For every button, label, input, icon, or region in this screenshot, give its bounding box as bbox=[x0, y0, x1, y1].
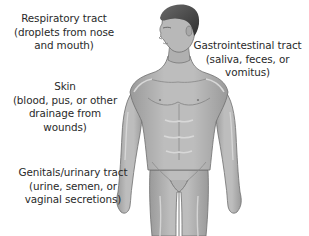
gu-title: Genitals/urinary tract bbox=[0, 166, 146, 180]
label-skin: Skin (blood, pus, or other drainage from… bbox=[0, 80, 130, 134]
gi-detail-line-2: vomitus) bbox=[186, 66, 309, 80]
skin-detail-line-1: (blood, pus, or other bbox=[0, 94, 130, 108]
legs bbox=[150, 170, 209, 236]
gu-detail-line-1: (urine, semen, or bbox=[0, 180, 146, 194]
skin-title: Skin bbox=[0, 80, 130, 94]
gi-title: Gastrointestinal tract bbox=[186, 39, 309, 53]
gu-detail-line-2: vaginal secretions) bbox=[0, 193, 146, 207]
label-respiratory-tract: Respiratory tract (droplets from nose an… bbox=[0, 12, 128, 53]
label-genitals-urinary-tract: Genitals/urinary tract (urine, semen, or… bbox=[0, 166, 146, 207]
respiratory-detail-line-2: and mouth) bbox=[0, 39, 128, 53]
label-gastrointestinal-tract: Gastrointestinal tract (saliva, feces, o… bbox=[186, 39, 309, 80]
skin-detail-line-2: drainage from bbox=[0, 107, 130, 121]
respiratory-detail-line-1: (droplets from nose bbox=[0, 26, 128, 40]
respiratory-title: Respiratory tract bbox=[0, 12, 128, 26]
skin-detail-line-3: wounds) bbox=[0, 121, 130, 135]
diagram-canvas: Respiratory tract (droplets from nose an… bbox=[0, 0, 309, 236]
gi-detail-line-1: (saliva, feces, or bbox=[186, 53, 309, 67]
